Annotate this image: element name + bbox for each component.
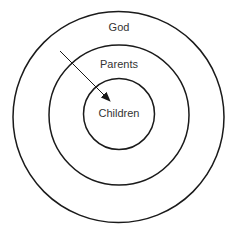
label-parents: Parents <box>100 58 138 70</box>
label-children: Children <box>99 107 140 119</box>
label-god: God <box>109 21 130 33</box>
concentric-diagram: God Parents Children <box>0 0 237 236</box>
